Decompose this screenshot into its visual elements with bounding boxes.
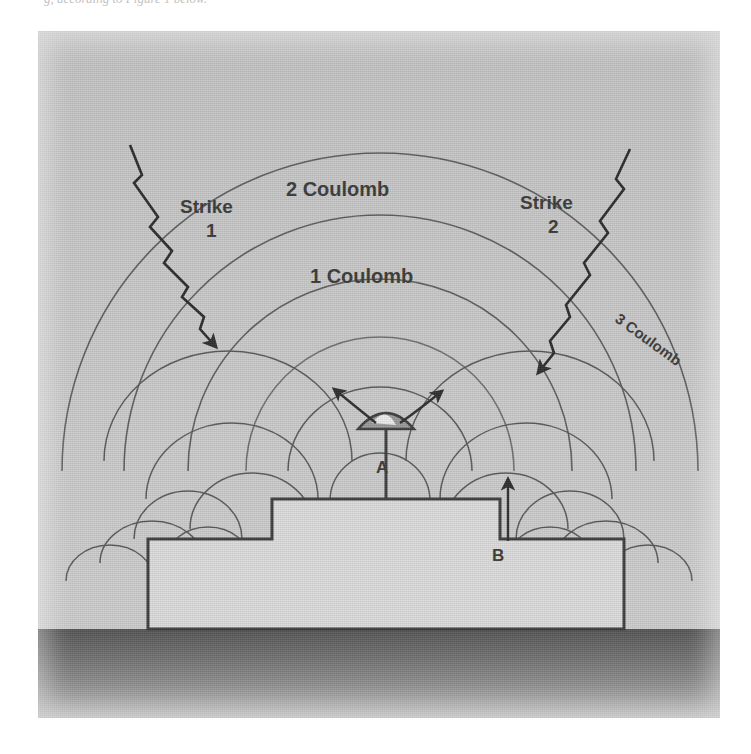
strike-2-label-line1: Strike (520, 192, 573, 213)
ground-surface (38, 629, 720, 718)
strike-1-label-line2: 1 (206, 220, 217, 241)
clipped-caption-text: g, according to Figure 1 below. (44, 0, 464, 11)
coulomb-2-label: 2 Coulomb (286, 178, 389, 200)
strike-1-label-line1: Strike (180, 196, 233, 217)
lightning-equipotential-diagram: Strike 1 Strike 2 2 Coulomb 1 Coulomb 3 … (38, 31, 720, 718)
point-b-label: B (492, 546, 504, 565)
figure-panel: Strike 1 Strike 2 2 Coulomb 1 Coulomb 3 … (38, 31, 720, 718)
point-a-label: A (376, 458, 388, 477)
coulomb-1-label: 1 Coulomb (310, 265, 413, 287)
strike-2-label-line2: 2 (548, 216, 559, 237)
